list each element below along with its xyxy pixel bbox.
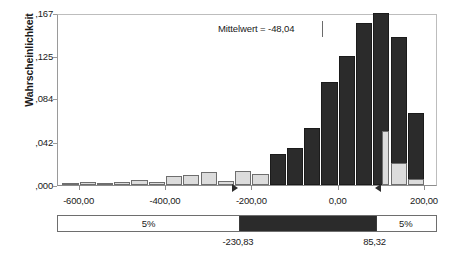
y-axis-tick-labels: ,167,125,084,042,000 [17,14,53,186]
x-tick-label: -600,00 [49,195,109,206]
x-tick-label: 200,00 [394,195,454,206]
mean-line [322,21,323,37]
x-tick-mark [251,186,252,190]
x-tick-mark [424,186,425,190]
y-tick-label: ,000 [19,180,53,191]
upper-bound-marker [375,184,381,192]
x-axis-tick-labels: -600,00-400,00-200,000,00200,00 [0,195,463,209]
mean-label: Mittelwert = -48,04 [218,23,295,34]
y-tick-label: ,125 [19,51,53,62]
x-tick-mark [338,186,339,190]
confidence-interval-strip: 5%5% [57,215,437,232]
plot-area: Mittelwert = -48,04 [57,14,437,186]
y-tick-label: ,042 [19,137,53,148]
histogram-figure: Wahrscheinlichkeit ,167,125,084,042,000 … [0,0,463,258]
ci-divider-lower [239,216,240,231]
ci-divider-upper [376,216,377,231]
x-tick-label: -200,00 [221,195,281,206]
x-tick-label: -400,00 [135,195,195,206]
ci-right-tail-text: 5% [399,218,412,229]
ci-center [239,216,376,231]
x-tick-label: 0,00 [308,195,368,206]
upper-bound-label: 85,32 [340,236,410,247]
y-tick-label: ,167 [19,8,53,19]
ci-right-tail: 5% [376,216,436,231]
lower-bound-marker [232,184,238,192]
annotations-layer: Mittelwert = -48,04 [58,15,436,185]
ci-left-tail: 5% [58,216,239,231]
x-tick-mark [165,186,166,190]
lower-bound-label: -230,83 [203,236,273,247]
ci-left-tail-text: 5% [142,218,155,229]
y-tick-label: ,084 [19,93,53,104]
x-tick-mark [79,186,80,190]
